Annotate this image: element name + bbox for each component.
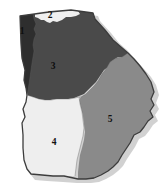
georgia-region-map: 1 2 3 4 5 bbox=[0, 0, 164, 189]
map-regions-layer bbox=[20, 10, 154, 179]
region-label-2: 2 bbox=[48, 10, 53, 20]
region-label-1: 1 bbox=[20, 26, 25, 36]
region-label-4: 4 bbox=[52, 137, 57, 147]
map-svg: 1 2 3 4 5 bbox=[0, 0, 164, 189]
region-label-3: 3 bbox=[51, 61, 56, 71]
map-region-4[interactable] bbox=[22, 95, 84, 176]
region-label-5: 5 bbox=[108, 114, 113, 124]
